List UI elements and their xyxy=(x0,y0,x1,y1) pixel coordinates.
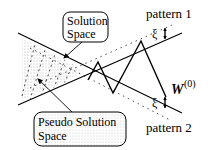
weight-superscript: (0) xyxy=(184,78,196,90)
pseudo-solution-space-label-line1: Pseudo Solution xyxy=(38,115,116,129)
diagram-canvas: Solution Space Pseudo Solution Space pat… xyxy=(0,0,208,150)
pseudo-solution-space-label-line2: Space xyxy=(38,129,67,143)
solution-space-label-line2: Space xyxy=(67,27,96,41)
solution-space-callout: Solution Space xyxy=(63,12,108,58)
xi1-label: ξ xyxy=(152,27,158,41)
xi2-label: ξ xyxy=(152,96,158,110)
pseudo-solution-region xyxy=(22,38,84,100)
pattern2-label: pattern 2 xyxy=(146,120,192,135)
pattern1-label: pattern 1 xyxy=(146,6,192,21)
weight-label: W xyxy=(171,82,185,97)
solution-space-pointer xyxy=(64,42,82,58)
solution-space-label-line1: Solution xyxy=(67,14,108,28)
pseudo-solution-space-callout: Pseudo Solution Space xyxy=(34,79,126,146)
